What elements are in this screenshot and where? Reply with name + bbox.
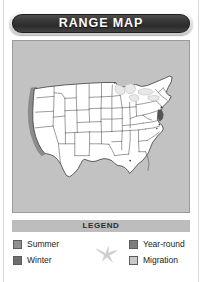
flying-bird-icon xyxy=(94,241,120,265)
mid-atlantic-coast-shading xyxy=(158,110,164,121)
legend-item-year-round: Year-round xyxy=(129,236,202,252)
legend-label-migration: Migration xyxy=(143,256,178,265)
legend-swatch-migration xyxy=(129,256,138,265)
title-banner-plate: RANGE MAP xyxy=(12,14,190,33)
legend-swatch-winter xyxy=(13,256,22,265)
legend-item-migration: Migration xyxy=(129,252,202,268)
legend-column-right: Year-round Migration xyxy=(129,236,202,268)
united-states-map xyxy=(13,41,189,212)
legend-item-summer: Summer xyxy=(13,236,91,252)
legend-label-winter: Winter xyxy=(27,256,52,265)
legend-item-winter: Winter xyxy=(13,252,91,268)
title-banner: RANGE MAP xyxy=(9,12,193,35)
legend-swatch-year-round xyxy=(129,240,138,249)
legend-header-bar: LEGEND xyxy=(12,220,190,232)
page-left-rule xyxy=(3,0,4,282)
range-map-card: RANGE MAP xyxy=(0,0,202,282)
legend-header-title: LEGEND xyxy=(83,222,120,230)
page-title: RANGE MAP xyxy=(59,17,144,30)
legend-label-year-round: Year-round xyxy=(143,240,185,249)
legend-column-left: Summer Winter xyxy=(13,236,91,268)
legend-label-summer: Summer xyxy=(27,240,59,249)
map-panel xyxy=(12,40,190,213)
legend-swatch-summer xyxy=(13,240,22,249)
legend-body: Summer Winter Year-round Migration xyxy=(12,236,190,270)
